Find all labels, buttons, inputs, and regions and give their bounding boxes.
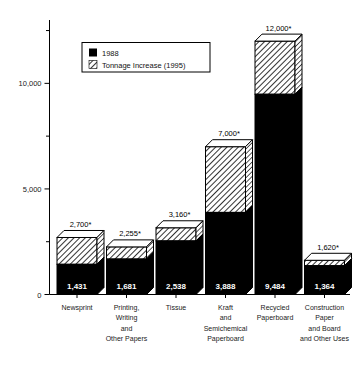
chart-legend: 1988 Tonnage Increase (1995): [82, 43, 210, 73]
bar-total-label: 2,255*: [119, 229, 141, 238]
legend-swatch-1988: [89, 49, 97, 57]
bar-side-face-1988: [97, 257, 104, 294]
category-label-line: and: [121, 325, 133, 332]
bar-top-face: [57, 230, 104, 237]
bar-base-value-label: 2,538: [166, 282, 187, 291]
legend-label-tonnage-increase: Tonnage Increase (1995): [102, 61, 186, 70]
bar-group: 3,160*2,538: [156, 210, 203, 294]
y-tick-label: 5,000: [23, 185, 42, 194]
bar-base-value-label: 1,681: [116, 282, 137, 291]
bar-base-value-label: 1,364: [314, 282, 335, 291]
bar-base-value-label: 3,888: [215, 282, 236, 291]
category-label-line: and Other Uses: [300, 335, 350, 342]
category-label-line: and Board: [308, 325, 340, 332]
category-label-line: Kraft: [218, 304, 233, 311]
category-label-line: Paper: [315, 314, 334, 322]
bar-segment-increase: [206, 147, 246, 213]
bar-base-value-label: 9,484: [265, 282, 286, 291]
category-label-line: Other Papers: [106, 335, 148, 343]
category-label: Tissue: [166, 304, 186, 311]
bar-segment-increase: [156, 228, 196, 241]
stacked-bar-chart: 05,00010,000 2,700*1,4312,255*1,6813,160…: [0, 0, 362, 365]
bar-top-face: [255, 34, 302, 41]
bar-segment-increase: [305, 260, 345, 265]
bar-side-face-1988: [196, 234, 203, 295]
y-tick-label: 0: [37, 291, 41, 300]
bar-top-face: [206, 140, 253, 147]
category-label-line: Paperboard: [257, 314, 294, 322]
bar-side-face-1988: [295, 87, 302, 294]
category-label-line: Tissue: [166, 304, 186, 311]
category-label-line: and: [220, 314, 232, 321]
bar-side-face-1988: [345, 259, 352, 295]
bar-segment-increase: [255, 41, 295, 94]
bar-side-face-1988: [147, 252, 154, 294]
category-label-line: Newsprint: [61, 304, 92, 312]
category-label-line: Paperboard: [207, 335, 244, 343]
legend-label-1988: 1988: [102, 49, 119, 58]
bar-group: 2,700*1,431: [57, 220, 104, 295]
bar-group: 7,000*3,888: [206, 129, 253, 294]
bar-side-face-1988: [246, 205, 253, 294]
bar-side-face-increase: [295, 34, 302, 94]
bar-side-face-increase: [246, 140, 253, 213]
bar-top-face: [156, 221, 203, 228]
bar-segment-increase: [107, 247, 147, 259]
chart-container: 05,00010,000 2,700*1,4312,255*1,6813,160…: [0, 0, 362, 365]
category-label: Newsprint: [61, 304, 92, 312]
bar-total-label: 7,000*: [218, 129, 240, 138]
bar-total-label: 3,160*: [169, 210, 191, 219]
bar-segment-1988: [255, 94, 295, 294]
bar-top-face: [305, 253, 352, 260]
category-label-line: Recycled: [261, 304, 290, 312]
category-label-line: Printing,: [114, 304, 140, 312]
category-label-line: Semichemical: [204, 325, 248, 332]
legend-swatch-tonnage-increase: [89, 61, 97, 69]
bar-group: 12,000*9,484: [255, 24, 302, 295]
bar-top-face: [107, 240, 154, 247]
bar-segment-increase: [57, 237, 97, 264]
category-label-line: Writing: [116, 314, 138, 322]
bar-total-label: 12,000*: [266, 24, 292, 33]
bar-total-label: 1,620*: [317, 243, 339, 252]
category-label-line: Construction: [305, 304, 344, 311]
bar-total-label: 2,700*: [70, 220, 92, 229]
bar-base-value-label: 1,431: [67, 282, 88, 291]
y-tick-label: 10,000: [19, 79, 42, 88]
